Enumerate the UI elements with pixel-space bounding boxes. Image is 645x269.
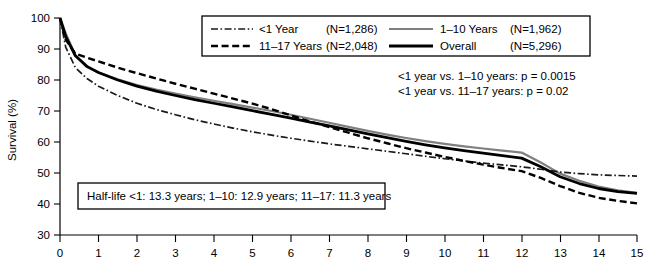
- x-tick-label: 10: [439, 247, 452, 259]
- y-axis-title: Survival (%): [6, 99, 18, 161]
- x-tick-label: 15: [631, 247, 644, 259]
- y-tick-label: 90: [37, 43, 50, 55]
- x-tick-label: 4: [211, 247, 218, 259]
- x-tick-label: 9: [403, 247, 409, 259]
- legend-label-under-1-year: <1 Year: [259, 23, 299, 35]
- y-tick-label: 50: [37, 167, 50, 179]
- legend-count-under-1-year: (N=1,286): [326, 23, 378, 35]
- x-axis: [60, 235, 637, 242]
- x-tick-label: 0: [57, 247, 63, 259]
- x-tick-label: 2: [134, 247, 140, 259]
- x-tick-label: 1: [95, 247, 101, 259]
- pvalue-line-1: <1 year vs. 1–10 years: p = 0.0015: [398, 70, 576, 82]
- x-tick-label: 11: [478, 247, 490, 259]
- x-tick-label: 8: [365, 247, 371, 259]
- halflife-annotation: Half-life <1: 13.3 years; 1–10: 12.9 yea…: [78, 183, 391, 209]
- x-tick-label: 7: [326, 247, 332, 259]
- halflife-text: Half-life <1: 13.3 years; 1–10: 12.9 yea…: [87, 190, 391, 202]
- y-tick-label: 70: [37, 105, 50, 117]
- legend: <1 Year (N=1,286) 11–17 Years (N=2,048) …: [202, 16, 590, 56]
- survival-plot-svg: Survival (%) 100 90 80 70 60 50 40 30: [0, 0, 645, 269]
- pvalue-annotations: <1 year vs. 1–10 years: p = 0.0015 <1 ye…: [398, 70, 576, 97]
- legend-count-overall: (N=5,296): [510, 40, 562, 52]
- legend-label-11-17-years: 11–17 Years: [259, 40, 322, 52]
- y-tick-label: 80: [37, 74, 50, 86]
- legend-count-1-10-years: (N=1,962): [510, 23, 562, 35]
- y-axis-tick-labels: 100 90 80 70 60 50 40 30: [31, 12, 50, 241]
- x-tick-label: 3: [172, 247, 178, 259]
- legend-label-1-10-years: 1–10 Years: [440, 23, 498, 35]
- legend-label-overall: Overall: [440, 40, 476, 52]
- x-tick-label: 13: [554, 247, 567, 259]
- x-tick-label: 6: [288, 247, 294, 259]
- pvalue-line-2: <1 year vs. 11–17 years: p = 0.02: [398, 85, 568, 97]
- x-tick-label: 12: [516, 247, 529, 259]
- y-tick-label: 100: [31, 12, 50, 24]
- x-axis-tick-labels: 0 1 2 3 4 5 6 7 8 9 10 11 12 13 14 15: [57, 247, 644, 259]
- y-axis: [54, 18, 60, 235]
- legend-count-11-17-years: (N=2,048): [326, 40, 378, 52]
- y-tick-label: 40: [37, 198, 50, 210]
- x-tick-label: 14: [593, 247, 606, 259]
- x-tick-label: 5: [249, 247, 255, 259]
- y-tick-label: 30: [37, 229, 50, 241]
- survival-chart-figure: Survival (%) 100 90 80 70 60 50 40 30: [0, 0, 645, 269]
- y-tick-label: 60: [37, 136, 50, 148]
